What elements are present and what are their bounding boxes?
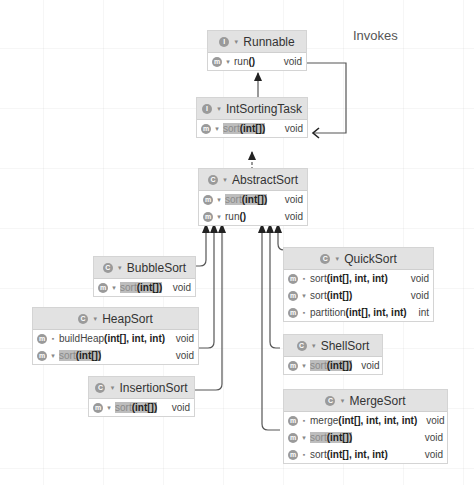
public-visibility-icon: ▾ bbox=[301, 434, 307, 441]
public-visibility-icon: ▾ bbox=[214, 125, 220, 132]
node-intsortingtask[interactable]: I ▾ IntSortingTask m ▾ sort(int[]) void bbox=[196, 97, 308, 138]
private-lock-icon: ▪ bbox=[301, 309, 307, 316]
node-title: InsertionSort bbox=[119, 381, 187, 395]
method-name: sort bbox=[310, 449, 327, 460]
node-shellsort[interactable]: C ▾ ShellSort m ▾ sort(int[]) void bbox=[283, 334, 383, 375]
member-row[interactable]: m ▾ run() void bbox=[199, 208, 307, 225]
interface-icon: I bbox=[219, 37, 229, 47]
method-name: sort bbox=[59, 350, 76, 361]
method-icon: m bbox=[201, 124, 211, 134]
public-visibility-icon: ▾ bbox=[301, 292, 307, 299]
public-visibility-icon: ▾ bbox=[339, 397, 345, 404]
method-icon: m bbox=[37, 334, 47, 344]
return-type: void bbox=[172, 402, 190, 413]
member-row[interactable]: m ▾ sort(int[]) void bbox=[199, 191, 307, 208]
public-visibility-icon: ▾ bbox=[117, 264, 123, 271]
method-params: () bbox=[248, 56, 255, 67]
method-icon: m bbox=[37, 351, 47, 361]
class-icon: C bbox=[78, 314, 88, 324]
method-name: sort bbox=[225, 194, 242, 205]
method-icon: m bbox=[288, 274, 298, 284]
class-icon: C bbox=[297, 341, 307, 351]
member-row[interactable]: m ▾ sort(int[]) void bbox=[284, 429, 447, 446]
method-icon: m bbox=[288, 433, 298, 443]
node-insertionsort[interactable]: C ▾ InsertionSort m ▾ sort(int[]) void bbox=[88, 376, 195, 417]
method-params: (int[]) bbox=[327, 360, 353, 371]
private-lock-icon: ▪ bbox=[301, 417, 307, 424]
private-lock-icon: ▪ bbox=[50, 335, 56, 342]
edge-shellsort bbox=[270, 232, 280, 348]
public-visibility-icon: ▾ bbox=[222, 176, 228, 183]
node-header: C ▾ QuickSort bbox=[284, 248, 433, 270]
method-params: (int[], int, int) bbox=[104, 333, 165, 344]
node-title: HeapSort bbox=[102, 312, 153, 326]
node-abstractsort[interactable]: C ▾ AbstractSort m ▾ sort(int[]) void m … bbox=[198, 168, 308, 226]
class-icon: C bbox=[95, 383, 105, 393]
node-mergesort[interactable]: C ▾ MergeSort m ▪ merge(int[], int, int,… bbox=[283, 389, 448, 464]
member-row[interactable]: m ▪ sort(int[], int, int) void bbox=[284, 446, 447, 463]
public-visibility-icon: ▾ bbox=[311, 342, 317, 349]
class-icon: C bbox=[103, 263, 113, 273]
abstract-class-icon: C bbox=[208, 175, 218, 185]
return-type: void bbox=[411, 273, 429, 284]
node-header: C ▾ BubbleSort bbox=[94, 257, 195, 279]
member-row[interactable]: m ▪ buildHeap(int[], int, int) void bbox=[33, 330, 198, 347]
method-params: (int[]) bbox=[137, 282, 163, 293]
public-visibility-icon: ▾ bbox=[106, 404, 112, 411]
method-params: (int[]) bbox=[240, 123, 266, 134]
interface-icon: I bbox=[202, 104, 212, 114]
public-visibility-icon: ▾ bbox=[225, 58, 231, 65]
node-header: C ▾ AbstractSort bbox=[199, 169, 307, 191]
public-visibility-icon: ▾ bbox=[233, 38, 239, 45]
public-visibility-icon: ▾ bbox=[216, 213, 222, 220]
node-header: C ▾ MergeSort bbox=[284, 390, 447, 412]
return-type: void bbox=[425, 449, 443, 460]
return-type: void bbox=[176, 333, 194, 344]
method-name: sort bbox=[310, 360, 327, 371]
member-row[interactable]: m ▪ partition(int[], int, int) int bbox=[284, 304, 433, 321]
member-row[interactable]: m ▾ sort(int[]) void bbox=[284, 357, 382, 374]
method-icon: m bbox=[212, 57, 222, 67]
return-type: int bbox=[418, 307, 429, 318]
edge-label-invokes: Invokes bbox=[353, 28, 398, 43]
member-row[interactable]: m ▾ sort(int[]) void bbox=[33, 347, 198, 364]
public-visibility-icon: ▾ bbox=[92, 315, 98, 322]
node-quicksort[interactable]: C ▾ QuickSort m ▪ sort(int[], int, int) … bbox=[283, 247, 434, 322]
method-name: sort bbox=[115, 402, 132, 413]
method-params: (int[]) bbox=[76, 350, 102, 361]
return-type: void bbox=[285, 123, 303, 134]
method-params: (int[], int, int, int) bbox=[338, 415, 417, 426]
node-runnable[interactable]: I ▾ Runnable m ▾ run() void bbox=[207, 30, 307, 71]
return-type: void bbox=[425, 432, 443, 443]
member-row[interactable]: m ▾ run() void bbox=[208, 53, 306, 70]
node-header: C ▾ InsertionSort bbox=[89, 377, 194, 399]
member-row[interactable]: m ▾ sort(int[]) void bbox=[89, 399, 194, 416]
node-heapsort[interactable]: C ▾ HeapSort m ▪ buildHeap(int[], int, i… bbox=[32, 307, 199, 365]
return-type: void bbox=[426, 415, 444, 426]
node-title: QuickSort bbox=[344, 252, 397, 266]
node-title: Runnable bbox=[243, 35, 294, 49]
edge-mergesort bbox=[262, 232, 280, 430]
method-params: (int[], int, int) bbox=[327, 273, 388, 284]
method-icon: m bbox=[93, 403, 103, 413]
node-header: I ▾ IntSortingTask bbox=[197, 98, 307, 120]
member-row[interactable]: m ▾ sort(int[]) void bbox=[284, 287, 433, 304]
node-title: BubbleSort bbox=[127, 261, 186, 275]
method-icon: m bbox=[288, 308, 298, 318]
node-bubblesort[interactable]: C ▾ BubbleSort m ▾ sort(int[]) void bbox=[93, 256, 196, 297]
method-name: run bbox=[234, 56, 248, 67]
method-name: partition bbox=[310, 307, 346, 318]
member-row[interactable]: m ▾ sort(int[]) void bbox=[197, 120, 307, 137]
private-lock-icon: ▪ bbox=[301, 275, 307, 282]
return-type: void bbox=[285, 194, 303, 205]
node-title: AbstractSort bbox=[232, 173, 298, 187]
method-params: (int[]) bbox=[132, 402, 158, 413]
member-row[interactable]: m ▾ sort(int[]) void bbox=[94, 279, 195, 296]
member-row[interactable]: m ▪ sort(int[], int, int) void bbox=[284, 270, 433, 287]
node-title: ShellSort bbox=[321, 339, 370, 353]
class-icon: C bbox=[320, 254, 330, 264]
method-params: () bbox=[239, 211, 246, 222]
method-icon: m bbox=[288, 450, 298, 460]
member-row[interactable]: m ▪ merge(int[], int, int, int) void bbox=[284, 412, 447, 429]
return-type: void bbox=[176, 350, 194, 361]
